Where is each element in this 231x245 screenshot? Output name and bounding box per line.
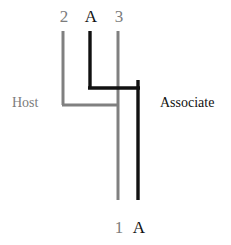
tanglegram-figure: 2 A 3 1 A Host Associate: [0, 0, 231, 245]
associate-tip-label-A-top: A: [82, 8, 100, 25]
tanglegram-canvas: [0, 0, 231, 245]
host-tree-label: Host: [12, 96, 38, 110]
host-tip-label-3: 3: [110, 8, 128, 25]
associate-tree-group: [88, 31, 140, 200]
associate-tip-label-A-bottom: A: [130, 219, 148, 236]
host-tip-label-2: 2: [55, 8, 73, 25]
associate-tree-label: Associate: [160, 96, 214, 110]
host-tip-label-1: 1: [110, 219, 128, 236]
